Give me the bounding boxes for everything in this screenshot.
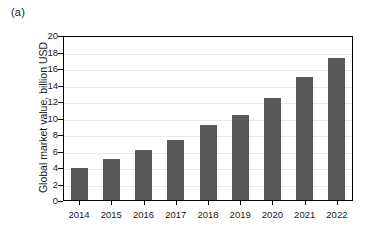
x-axis-tick	[144, 201, 145, 205]
x-axis-tick	[337, 201, 338, 205]
gridline	[64, 186, 352, 187]
y-axis-tick-label: 4	[18, 163, 58, 173]
y-axis-tick-label: 16	[18, 64, 58, 74]
y-axis-tick	[58, 201, 63, 202]
y-axis-tick-label: 18	[18, 48, 58, 58]
x-axis-tick-label: 2022	[316, 209, 358, 220]
plot-area	[63, 36, 353, 201]
y-axis-tick-label: 12	[18, 97, 58, 107]
figure-panel-a: (a) Global market value, billion USD 024…	[0, 0, 369, 235]
gridline	[64, 54, 352, 55]
gridline	[64, 103, 352, 104]
gridline	[64, 153, 352, 154]
y-axis-tick-label: 20	[18, 31, 58, 41]
y-axis-tick-label: 8	[18, 130, 58, 140]
gridline	[64, 169, 352, 170]
panel-label: (a)	[11, 6, 25, 19]
gridline	[64, 136, 352, 137]
gridline	[64, 70, 352, 71]
x-axis-tick	[79, 201, 80, 205]
y-axis-tick-label: 14	[18, 81, 58, 91]
y-axis-tick-label: 0	[18, 196, 58, 206]
y-axis-tick-label: 6	[18, 147, 58, 157]
x-axis-tick	[272, 201, 273, 205]
gridlines	[64, 37, 352, 200]
x-axis-tick	[176, 201, 177, 205]
gridline	[64, 120, 352, 121]
y-axis-tick-label: 10	[18, 114, 58, 124]
gridline	[64, 87, 352, 88]
x-axis-tick	[305, 201, 306, 205]
y-axis-tick-label: 2	[18, 180, 58, 190]
x-axis-tick	[208, 201, 209, 205]
x-axis-tick	[240, 201, 241, 205]
x-axis-tick	[111, 201, 112, 205]
